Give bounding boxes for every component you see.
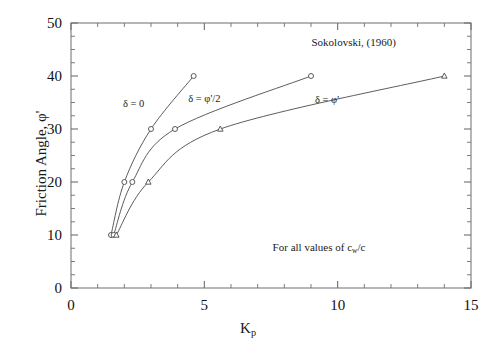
data-point-marker <box>309 74 314 79</box>
x-axis-minor-ticks <box>98 23 445 288</box>
source-annotation: Sokolovski, (1960) <box>311 36 395 48</box>
curve-label-delta-full: δ = φ' <box>315 94 339 105</box>
x-axis-title-main: K <box>240 320 251 336</box>
curve-label-delta-zero: δ = 0 <box>123 97 144 108</box>
x-axis-title: Kp <box>0 320 496 338</box>
data-point-marker <box>149 127 154 132</box>
chart-figure: 01020304050 051015 Friction Angle, φ' Kp… <box>0 0 496 352</box>
values-annotation-prefix: For all values of c <box>273 241 352 253</box>
plot-frame <box>71 23 471 288</box>
x-tick-label: 0 <box>67 297 75 314</box>
x-tick-label: 15 <box>464 297 479 314</box>
x-axis-title-subscript: p <box>251 327 256 338</box>
x-tick-label: 10 <box>330 297 345 314</box>
y-tick-label: 0 <box>18 280 62 297</box>
curve-label-delta-half: δ = φ'/2 <box>188 93 220 104</box>
data-markers-group <box>109 73 448 238</box>
y-axis-major-ticks <box>71 23 471 288</box>
values-annotation-suffix: /c <box>357 241 365 253</box>
data-point-marker <box>191 74 196 79</box>
y-axis-title: Friction Angle, φ' <box>33 54 50 274</box>
data-point-marker <box>442 73 448 78</box>
data-point-marker <box>130 180 135 185</box>
y-tick-label: 50 <box>18 15 62 32</box>
data-point-marker <box>173 127 178 132</box>
data-series-line <box>116 76 444 235</box>
data-point-marker <box>122 180 127 185</box>
y-axis-minor-ticks <box>71 36 471 275</box>
values-annotation: For all values of cw/c <box>273 241 366 255</box>
x-axis-major-ticks <box>71 23 471 288</box>
x-tick-label: 5 <box>201 297 209 314</box>
data-series-group <box>111 76 444 235</box>
